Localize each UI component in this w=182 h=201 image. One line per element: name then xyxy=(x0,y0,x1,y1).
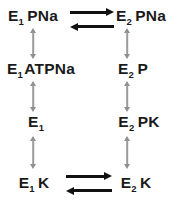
arrowhead-down-icon xyxy=(124,164,130,169)
species-subscript: 1 xyxy=(39,122,44,133)
species-subscript: 2 xyxy=(129,69,134,80)
species-label-e2-k: E2K xyxy=(121,175,152,191)
species-base: E xyxy=(7,60,18,77)
species-label-e1-k: E1K xyxy=(19,175,50,191)
species-label-e1-pna: E1PNa xyxy=(8,8,58,24)
vertical-arrow-e1-to-e1-k xyxy=(29,136,37,169)
species-base: E xyxy=(28,113,39,130)
species-ligand: P xyxy=(137,60,148,77)
arrow-shaft xyxy=(126,32,128,55)
vertical-arrow-e2-pna-to-e2-p xyxy=(123,28,131,59)
species-label-e2-pna: E2PNa xyxy=(116,8,166,24)
species-base: E xyxy=(116,7,127,24)
species-ligand: ATPNa xyxy=(24,60,75,77)
vertical-arrow-e1-pna-to-e1-atpna xyxy=(29,28,37,59)
vertical-arrow-e2-p-to-e2-pk xyxy=(123,81,131,112)
species-ligand: PK xyxy=(138,113,160,130)
species-ligand: PNa xyxy=(27,7,58,24)
vertical-arrow-e2-pk-to-e2-k xyxy=(123,136,131,169)
arrow-shaft-reverse xyxy=(72,189,112,192)
arrow-shaft-forward xyxy=(70,11,108,14)
arrowhead-left-icon xyxy=(66,187,74,195)
arrow-shaft-reverse xyxy=(76,25,114,28)
species-label-e2-p: E2P xyxy=(118,61,148,77)
arrowhead-down-icon xyxy=(124,54,130,59)
arrow-shaft xyxy=(32,140,34,165)
arrow-shaft-forward xyxy=(66,175,106,178)
arrowhead-left-icon xyxy=(70,23,78,31)
species-subscript: 1 xyxy=(29,183,34,194)
arrowhead-right-icon xyxy=(106,8,114,16)
vertical-arrow-e1-atpna-to-e1 xyxy=(29,81,37,112)
arrow-shaft xyxy=(32,32,34,55)
species-base: E xyxy=(118,60,129,77)
species-subscript: 2 xyxy=(126,16,131,27)
species-subscript: 2 xyxy=(131,183,136,194)
arrowhead-right-icon xyxy=(104,172,112,180)
species-label-e1-atpna: E1ATPNa xyxy=(7,61,75,77)
species-base: E xyxy=(8,7,19,24)
species-subscript: 1 xyxy=(18,69,23,80)
species-label-e1: E1 xyxy=(28,114,44,130)
species-ligand: K xyxy=(140,174,151,191)
species-ligand: PNa xyxy=(135,7,166,24)
arrow-shaft xyxy=(126,85,128,108)
species-subscript: 2 xyxy=(129,122,134,133)
species-subscript: 1 xyxy=(18,16,23,27)
species-label-e2-pk: E2PK xyxy=(118,114,159,130)
arrowhead-down-icon xyxy=(124,107,130,112)
arrowhead-down-icon xyxy=(30,54,36,59)
reaction-cycle-diagram: E1PNa E2PNa E1ATPNa E2P E1 xyxy=(0,0,182,201)
equilibrium-arrow-top xyxy=(70,11,114,28)
equilibrium-arrow-bottom xyxy=(66,175,112,192)
arrowhead-down-icon xyxy=(30,107,36,112)
species-base: E xyxy=(19,174,30,191)
arrow-shaft xyxy=(126,140,128,165)
arrow-shaft xyxy=(32,85,34,108)
species-ligand: K xyxy=(38,174,49,191)
species-base: E xyxy=(121,174,132,191)
arrowhead-down-icon xyxy=(30,164,36,169)
species-base: E xyxy=(118,113,129,130)
